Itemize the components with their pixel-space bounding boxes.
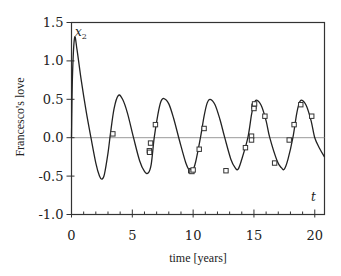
data-point-marker (111, 132, 115, 136)
y-tick-label: 1.0 (43, 53, 64, 68)
y-tick-label: 0.0 (43, 130, 64, 145)
data-point-marker (310, 114, 314, 118)
x-tick-label: 0 (67, 228, 75, 243)
y-axis-label: Francesco's love (13, 77, 27, 156)
variable-annotation: x2 (75, 25, 87, 41)
data-point-marker (148, 141, 152, 145)
y-tick-label: -1.0 (38, 207, 63, 222)
data-point-marker (153, 122, 157, 126)
x-tick-label: 5 (128, 228, 136, 243)
variable-subscript: 2 (82, 32, 87, 41)
data-point-marker (197, 147, 201, 151)
data-point-marker (243, 145, 247, 149)
plot-frame (72, 23, 325, 215)
x-tick-label: 15 (246, 228, 263, 243)
data-point-marker (202, 126, 206, 130)
y-axis-ticks: -1.0-0.50.00.51.01.5 (38, 15, 74, 222)
time-symbol-annotation: t (311, 190, 316, 204)
data-point-marker (263, 114, 267, 118)
data-point-marker (299, 102, 303, 106)
y-tick-label: -0.5 (38, 169, 63, 184)
data-series (72, 37, 325, 180)
data-point-marker (147, 150, 151, 154)
y-tick-label: 1.5 (43, 15, 64, 30)
data-point-marker (252, 106, 256, 110)
plot-area-border (72, 23, 325, 215)
data-point-marker (287, 138, 291, 142)
data-point-marker (252, 102, 256, 106)
data-point-marker (292, 122, 296, 126)
x-axis-label: time [years] (169, 251, 227, 265)
data-point-marker (191, 168, 195, 172)
chart: 05101520 -1.0-0.50.00.51.01.5 time [year… (0, 0, 341, 276)
data-point-marker (272, 161, 276, 165)
data-point-marker (249, 138, 253, 142)
data-point-marker (224, 169, 228, 173)
y-tick-label: 0.5 (43, 92, 64, 107)
model-curve (72, 37, 325, 180)
x-tick-label: 20 (306, 228, 323, 243)
x-tick-label: 10 (185, 228, 202, 243)
